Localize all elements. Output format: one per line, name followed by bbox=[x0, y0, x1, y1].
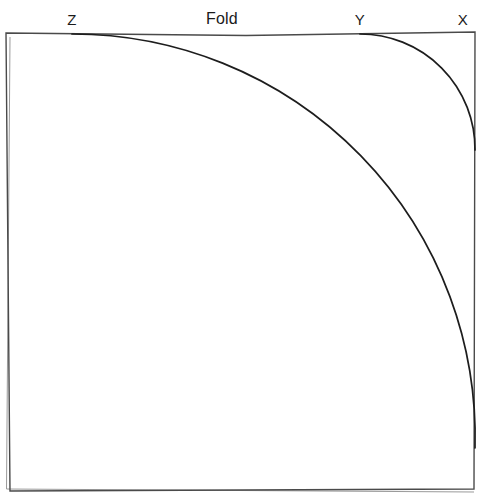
label-z: Z bbox=[67, 12, 77, 27]
label-fold: Fold bbox=[206, 11, 238, 27]
diagram-canvas bbox=[0, 0, 487, 498]
diagram-frame-border bbox=[6, 32, 475, 491]
label-y: Y bbox=[355, 12, 365, 27]
arc-from-y bbox=[360, 34, 475, 150]
arc-from-z bbox=[72, 34, 475, 448]
frame-scan-artifact-line bbox=[7, 37, 475, 492]
fold-diagram-figure: Z Fold Y X bbox=[0, 0, 487, 498]
label-x: X bbox=[458, 12, 468, 27]
